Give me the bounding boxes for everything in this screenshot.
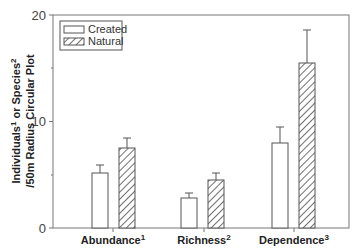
legend-natural: Natural	[88, 35, 123, 47]
legend-swatch-created	[64, 26, 84, 33]
y-tick-20: 20	[32, 8, 46, 23]
category-abundance: Abundance1	[81, 233, 146, 246]
legend: Created Natural	[60, 21, 127, 50]
svg-text:Individuals1 or Species2: Individuals1 or Species2	[9, 58, 22, 184]
x-ticks	[113, 228, 294, 232]
bar-abundance-created	[92, 173, 108, 228]
bar-chart: 20 10 0 Individuals1 or Species2 /50m Ra…	[0, 0, 358, 252]
bar-richness-created	[181, 198, 197, 228]
bar-dependence-created	[272, 143, 288, 228]
bar-richness-natural	[208, 180, 224, 228]
svg-text:/50m Radius Circular Plot: /50m Radius Circular Plot	[24, 54, 36, 188]
bar-abundance-natural	[119, 148, 135, 228]
category-richness: Richness2	[177, 233, 231, 246]
y-tick-0: 0	[39, 221, 46, 236]
legend-swatch-natural	[64, 38, 84, 45]
category-dependence: Dependence3	[259, 233, 329, 246]
bar-dependence-natural	[299, 63, 315, 228]
y-axis-label: Individuals1 or Species2 /50m Radius Cir…	[9, 54, 36, 188]
y-ticks	[49, 15, 53, 228]
legend-created: Created	[88, 23, 127, 35]
